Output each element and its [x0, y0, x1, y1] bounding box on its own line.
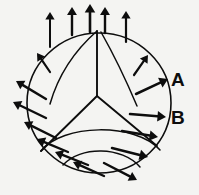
- label-b: B: [171, 108, 185, 127]
- figure-container: A B: [0, 0, 199, 195]
- label-a: A: [171, 70, 185, 89]
- sphere-vector-field-diagram: [0, 0, 199, 195]
